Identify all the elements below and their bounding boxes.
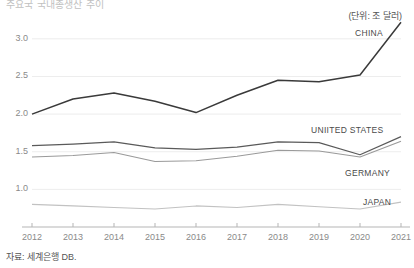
source-note: 자료: 세계은행 DB. — [6, 250, 77, 263]
x-axis-tick-label: 2016 — [176, 232, 216, 242]
x-axis-tick-label: 2014 — [94, 232, 134, 242]
series-label-germany: GERMANY — [345, 168, 390, 178]
x-axis-tick-label: 2019 — [299, 232, 339, 242]
data-series-group — [32, 22, 401, 209]
x-axis-tick-label: 2017 — [217, 232, 257, 242]
x-axis-tick-label: 2013 — [53, 232, 93, 242]
x-axis-ticks — [32, 223, 401, 227]
series-label-china: CHINA — [355, 28, 383, 38]
x-axis-tick-label: 2018 — [258, 232, 298, 242]
gridlines — [32, 39, 401, 190]
x-axis-tick-label: 2012 — [12, 232, 52, 242]
y-axis-tick-label: 3.0 — [4, 33, 28, 43]
x-axis-tick-label: 2020 — [340, 232, 380, 242]
chart-container: 주요국 국내총생산 추이 (단위: 조 달러) 1.01.52.02.53.0 … — [0, 0, 414, 268]
y-axis-tick-label: 2.5 — [4, 70, 28, 80]
y-axis-tick-label: 1.0 — [4, 183, 28, 193]
y-axis-tick-label: 1.5 — [4, 146, 28, 156]
series-line-japan — [32, 202, 401, 209]
y-axis-tick-label: 2.0 — [4, 108, 28, 118]
x-axis-tick-label: 2021 — [381, 232, 414, 242]
x-axis-tick-label: 2015 — [135, 232, 175, 242]
series-label-united-states: UNIITED STATES — [311, 125, 383, 135]
series-label-japan: JAPAN — [363, 197, 391, 207]
series-line-china — [32, 22, 401, 114]
